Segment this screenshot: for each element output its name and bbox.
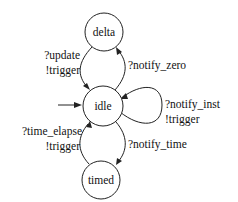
arrowhead-icon bbox=[83, 83, 90, 90]
transition-label: !trigger bbox=[46, 140, 81, 153]
state-idle: idle bbox=[83, 86, 123, 126]
transition-label: ?notify_inst bbox=[165, 98, 221, 111]
edge-idle-to-timed bbox=[116, 122, 125, 162]
state-timed: timed bbox=[82, 161, 120, 199]
edge-idle-to-delta bbox=[115, 50, 125, 90]
arrowhead-icon bbox=[116, 158, 122, 165]
state-label: delta bbox=[93, 26, 115, 38]
transition-label: ?update bbox=[44, 49, 80, 62]
transition-label: ?time_elapse bbox=[22, 125, 82, 138]
edge-delta-to-idle bbox=[80, 47, 92, 88]
state-diagram: delta idle timed ?update !trigger ?notif… bbox=[0, 0, 238, 202]
arrowhead-icon bbox=[74, 102, 82, 108]
transition-label: ?notify_time bbox=[128, 138, 187, 151]
state-label: timed bbox=[88, 174, 114, 186]
state-label: idle bbox=[94, 100, 111, 112]
edge-idle-self-loop bbox=[120, 87, 162, 123]
transition-label: ?notify_zero bbox=[128, 59, 186, 72]
transition-label: !trigger bbox=[46, 64, 81, 77]
state-delta: delta bbox=[85, 13, 123, 51]
transition-label: !trigger bbox=[165, 113, 200, 126]
